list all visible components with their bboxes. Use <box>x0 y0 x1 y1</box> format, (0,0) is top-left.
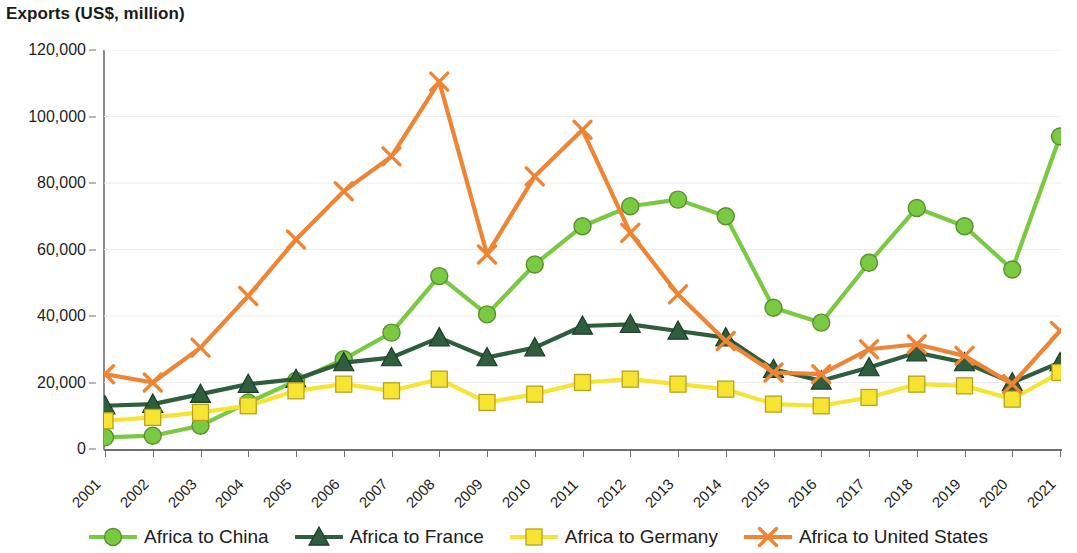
x-tick-mark <box>726 450 727 457</box>
x-tick-label: 2019 <box>928 475 964 511</box>
y-tick-label: 100,000 <box>28 108 86 126</box>
data-point-marker <box>765 299 782 316</box>
data-point-marker <box>240 398 256 414</box>
data-point-marker <box>956 218 973 235</box>
x-tick-label: 2007 <box>355 475 391 511</box>
plot-area <box>104 50 1061 449</box>
legend-label: Africa to United States <box>799 526 988 548</box>
x-tick-label: 2012 <box>593 475 629 511</box>
legend-item-africa-to-china[interactable]: Africa to China <box>89 525 269 549</box>
x-tick-mark <box>487 450 488 457</box>
x-tick-mark <box>774 450 775 457</box>
data-point-marker <box>908 199 925 216</box>
data-point-marker <box>717 208 734 225</box>
data-point-marker <box>957 378 973 394</box>
data-point-marker <box>574 218 591 235</box>
data-point-marker <box>526 256 543 273</box>
x-tick-mark <box>917 450 918 457</box>
legend-label: Africa to China <box>144 526 269 548</box>
data-point-marker <box>861 389 877 405</box>
x-tick-mark <box>821 450 822 457</box>
data-point-marker <box>526 168 543 185</box>
x-tick-mark <box>630 450 631 457</box>
legend-item-africa-to-germany[interactable]: Africa to Germany <box>510 525 718 549</box>
x-tick-mark <box>1060 450 1061 457</box>
data-point-marker <box>1052 322 1062 339</box>
data-point-marker <box>766 396 782 412</box>
data-point-marker <box>479 306 496 323</box>
x-tick-label: 2018 <box>880 475 916 511</box>
data-point-marker <box>383 148 400 165</box>
series-layer <box>104 50 1061 449</box>
data-point-marker <box>288 383 304 399</box>
data-point-marker <box>526 529 542 545</box>
data-point-marker <box>144 427 161 444</box>
x-tick-label: 2003 <box>164 475 200 511</box>
data-point-marker <box>431 268 448 285</box>
data-point-marker <box>527 386 543 402</box>
y-tick-label: 20,000 <box>37 374 86 392</box>
x-tick-label: 2017 <box>832 475 868 511</box>
legend-marker-icon <box>295 525 343 549</box>
data-point-marker <box>383 324 400 341</box>
x-tick-mark <box>296 450 297 457</box>
x-tick-mark <box>583 450 584 457</box>
x-tick-mark <box>153 450 154 457</box>
data-point-marker <box>288 231 305 248</box>
x-tick-label: 2015 <box>737 475 773 511</box>
data-point-marker <box>861 254 878 271</box>
data-point-marker <box>670 376 686 392</box>
x-tick-mark <box>1012 450 1013 457</box>
chart-title: Exports (US$, million) <box>6 4 185 24</box>
legend-item-africa-to-united-states[interactable]: Africa to United States <box>744 525 988 549</box>
x-tick-label: 2005 <box>259 475 295 511</box>
x-tick-label: 2004 <box>211 475 247 511</box>
x-tick-label: 2014 <box>689 475 725 511</box>
x-tick-label: 2011 <box>546 476 581 511</box>
x-tick-mark <box>965 450 966 457</box>
x-tick-mark <box>869 450 870 457</box>
y-axis: 020,00040,00060,00080,000100,000120,000 <box>0 50 96 449</box>
y-tick-mark <box>89 316 96 317</box>
legend-marker-icon <box>744 525 792 549</box>
data-point-marker <box>336 376 352 392</box>
y-tick-label: 120,000 <box>28 41 86 59</box>
data-point-marker <box>145 409 161 425</box>
data-point-marker <box>813 314 830 331</box>
data-point-marker <box>670 191 687 208</box>
data-point-marker <box>575 375 591 391</box>
data-point-marker <box>479 394 495 410</box>
data-point-marker <box>193 404 209 420</box>
data-point-marker <box>431 371 447 387</box>
x-tick-mark <box>439 450 440 457</box>
y-tick-label: 60,000 <box>37 241 86 259</box>
exports-line-chart: Exports (US$, million) 020,00040,00060,0… <box>0 0 1077 553</box>
data-point-marker <box>1052 365 1061 381</box>
data-point-marker <box>622 224 639 241</box>
x-tick-label: 2016 <box>784 475 820 511</box>
chart-legend: Africa to ChinaAfrica to FranceAfrica to… <box>0 521 1077 553</box>
x-tick-mark <box>535 450 536 457</box>
legend-label: Africa to Germany <box>565 526 718 548</box>
x-tick-label: 2008 <box>402 475 438 511</box>
data-point-marker <box>1004 391 1020 407</box>
data-point-marker <box>622 198 639 215</box>
x-tick-label: 2013 <box>641 475 677 511</box>
x-tick-label: 2021 <box>1023 475 1059 511</box>
legend-label: Africa to France <box>350 526 484 548</box>
x-tick-label: 2002 <box>116 475 152 511</box>
x-tick-label: 2001 <box>68 475 104 511</box>
x-tick-mark <box>248 450 249 457</box>
data-point-marker <box>813 398 829 414</box>
x-tick-mark <box>678 450 679 457</box>
data-point-marker <box>1004 261 1021 278</box>
data-point-marker <box>105 529 122 546</box>
y-tick-label: 80,000 <box>37 174 86 192</box>
y-tick-mark <box>89 249 96 250</box>
y-tick-mark <box>89 449 96 450</box>
data-point-marker <box>192 339 209 356</box>
x-tick-label: 2009 <box>450 475 486 511</box>
data-point-marker <box>429 328 449 346</box>
legend-item-africa-to-france[interactable]: Africa to France <box>295 525 484 549</box>
data-point-marker <box>1052 128 1062 145</box>
